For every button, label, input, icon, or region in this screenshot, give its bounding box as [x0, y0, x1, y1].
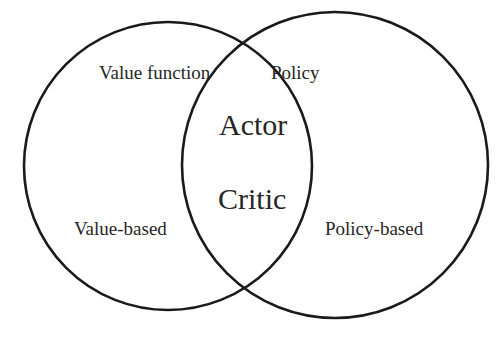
policy-based-circle [182, 12, 488, 318]
label-value-function: Value function [99, 63, 210, 82]
label-policy-based: Policy-based [325, 219, 423, 238]
label-policy: Policy [271, 63, 320, 82]
label-value-based: Value-based [74, 219, 167, 238]
label-actor: Actor [219, 110, 287, 140]
venn-diagram [0, 0, 503, 337]
label-critic: Critic [218, 184, 286, 214]
